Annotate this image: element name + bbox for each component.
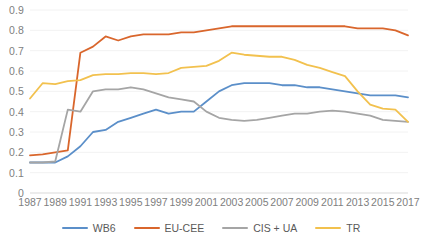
x-axis-tick-label: 2017	[396, 196, 419, 208]
series-line-wb6	[30, 83, 408, 162]
series-line-cis-ua	[30, 87, 408, 162]
x-axis-tick-label: 2013	[346, 196, 369, 208]
plot-area	[30, 10, 408, 193]
x-axis-tick-label: 2011	[321, 196, 344, 208]
legend-label: CIS + UA	[253, 222, 297, 234]
legend-label: EU-CEE	[165, 222, 205, 234]
x-axis-tick-label: 2015	[371, 196, 394, 208]
x-axis-tick-label: 1993	[94, 196, 117, 208]
x-axis-tick-label: 1997	[144, 196, 167, 208]
legend-swatch-icon	[62, 227, 88, 230]
x-axis-tick-label: 2003	[220, 196, 243, 208]
y-axis-tick-label: 0.5	[9, 85, 24, 97]
y-axis-tick-label: 0.3	[9, 126, 24, 138]
legend-item[interactable]: WB6	[62, 222, 116, 234]
plot-svg	[30, 10, 408, 193]
x-axis: 1987198919911993199519971999200120032005…	[30, 196, 408, 212]
x-axis-tick-label: 1999	[170, 196, 193, 208]
x-axis-tick-label: 1995	[119, 196, 142, 208]
x-axis-tick-label: 1987	[18, 196, 41, 208]
y-axis-tick-label: 0.6	[9, 65, 24, 77]
x-axis-tick-label: 1991	[69, 196, 92, 208]
y-axis-tick-label: 0.8	[9, 24, 24, 36]
x-axis-tick-label: 2005	[245, 196, 268, 208]
y-axis-tick-label: 0.4	[9, 106, 24, 118]
chart-legend: WB6EU-CEECIS + UATR	[0, 218, 422, 238]
x-axis-tick-label: 2007	[270, 196, 293, 208]
line-chart: 0.90.80.70.60.50.40.30.20.10 19871989199…	[0, 0, 422, 244]
legend-swatch-icon	[134, 227, 160, 230]
legend-swatch-icon	[315, 227, 341, 230]
y-axis-tick-label: 0.9	[9, 4, 24, 16]
legend-item[interactable]: CIS + UA	[222, 222, 297, 234]
legend-item[interactable]: EU-CEE	[134, 222, 205, 234]
legend-label: WB6	[93, 222, 116, 234]
x-axis-tick-label: 2009	[296, 196, 319, 208]
y-axis-tick-label: 0.1	[9, 167, 24, 179]
x-axis-tick-label: 2001	[195, 196, 218, 208]
legend-swatch-icon	[222, 227, 248, 230]
y-axis-tick-label: 0.7	[9, 45, 24, 57]
x-axis-tick-label: 1989	[44, 196, 67, 208]
y-axis-tick-label: 0.2	[9, 146, 24, 158]
legend-item[interactable]: TR	[315, 222, 360, 234]
legend-label: TR	[346, 222, 360, 234]
